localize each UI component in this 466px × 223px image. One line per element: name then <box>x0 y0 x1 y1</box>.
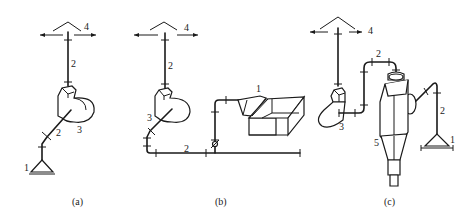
label-pipe-lower: 2 <box>184 143 189 154</box>
caption-b: (b) <box>215 196 227 208</box>
label-outlet: 4 <box>184 22 189 33</box>
label-pipe-lower: 2 <box>56 127 61 138</box>
duct-right <box>416 83 441 135</box>
label-fan: 3 <box>77 124 82 135</box>
exhaust-cap-icon <box>320 17 355 29</box>
caption-a: (a) <box>72 196 83 208</box>
hood-tank-icon <box>238 96 304 135</box>
cyclone-icon <box>380 72 416 186</box>
label-hood: 1 <box>24 162 29 173</box>
ventilation-system-diagram: 4 2 3 2 1 (a) <box>0 0 466 223</box>
panel-c: 4 3 2 <box>310 17 455 208</box>
label-outlet: 4 <box>84 21 89 32</box>
label-pipe-upper: 2 <box>71 58 76 69</box>
panel-a: 4 2 3 2 1 (a) <box>24 21 96 208</box>
fan-icon <box>155 88 190 122</box>
hood-icon <box>29 160 55 174</box>
exhaust-cap-icon <box>150 22 177 30</box>
label-hood: 1 <box>450 134 455 145</box>
label-outlet: 4 <box>368 25 373 36</box>
label-fan: 3 <box>147 112 152 123</box>
label-cyclone: 5 <box>374 137 379 148</box>
label-hood: 1 <box>256 83 261 94</box>
label-pipe-upper: 2 <box>168 60 173 71</box>
outlet-arrows-icon <box>310 30 362 34</box>
label-pipe-upper: 2 <box>376 48 381 59</box>
hood-icon <box>421 134 453 151</box>
caption-c: (c) <box>384 196 395 208</box>
duct-vertical <box>334 28 342 86</box>
label-fan: 3 <box>339 121 344 132</box>
label-pipe-right: 2 <box>440 105 445 116</box>
exhaust-cap-icon <box>53 22 81 31</box>
outlet-arrows-icon <box>134 33 198 37</box>
fan-icon <box>58 86 94 122</box>
panel-b: 4 2 3 2 <box>134 22 304 208</box>
